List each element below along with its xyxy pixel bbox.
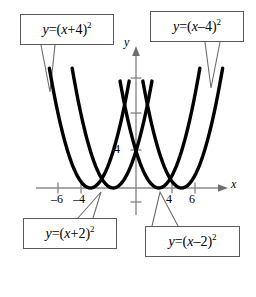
equation-text-top-left: y=(x+4)2	[42, 22, 91, 38]
x-tick-label--4: –4	[73, 192, 85, 207]
curve-y-x-4-2	[49, 68, 129, 188]
equation-equals: =	[179, 19, 187, 34]
callout-equation-x-plus-2: y=(x+2)2	[23, 218, 117, 249]
equation-exponent: 2	[87, 20, 92, 30]
x-tick-label-4: 4	[166, 192, 172, 207]
equation-operator: –	[198, 19, 205, 34]
equation-constant: 4	[205, 19, 212, 34]
y-axis-label: y	[124, 35, 129, 50]
y-tick-label-4: 4	[114, 142, 120, 157]
x-axis-arrowhead	[218, 184, 228, 192]
y-axis-arrowhead	[132, 46, 140, 56]
equation-text-bottom-right: y=(x–2)2	[168, 234, 216, 250]
curve-y-x-2-2	[120, 68, 200, 188]
leader-line-top-right	[205, 42, 220, 88]
equation-equals: =	[52, 226, 60, 241]
equation-exponent: 2	[212, 232, 217, 242]
equation-text-top-right: y=(x–4)2	[173, 19, 221, 35]
equation-exponent: 2	[90, 224, 95, 234]
callout-equation-x-plus-4: y=(x+4)2	[20, 14, 114, 45]
callout-equation-x-minus-2: y=(x–2)2	[145, 226, 240, 257]
callout-equation-x-minus-4: y=(x–4)2	[150, 11, 244, 42]
equation-text-bottom-left: y=(x+2)2	[45, 226, 94, 242]
x-tick-label--6: –6	[51, 192, 63, 207]
x-axis-label: x	[231, 177, 236, 192]
equation-exponent: 2	[217, 17, 222, 27]
leader-line-bottom-right	[152, 192, 178, 226]
curve-y-x-2-2	[72, 68, 152, 188]
equation-equals: =	[49, 22, 57, 37]
x-tick-label-6: 6	[189, 192, 195, 207]
equation-equals: =	[175, 234, 183, 249]
